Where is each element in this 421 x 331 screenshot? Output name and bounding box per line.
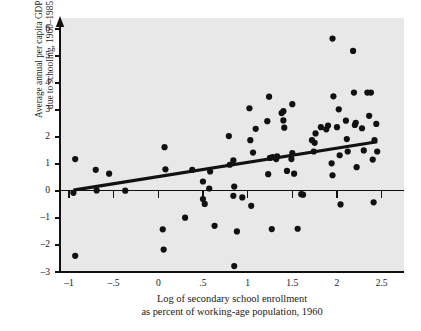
figure-container: –3–2–10123456–1–.50.511.522.5 Average an…	[0, 0, 421, 331]
y-tick-label: 2	[22, 130, 50, 141]
y-tick-label: 6	[22, 22, 50, 33]
x-axis-title-line2: as percent of working-age population, 19…	[60, 305, 404, 318]
x-tick-label: –1	[49, 277, 89, 288]
y-tick-label: –3	[22, 266, 50, 277]
y-tick-label: 5	[22, 49, 50, 60]
y-tick-label: 3	[22, 103, 50, 114]
y-tick-label: 1	[22, 157, 50, 168]
x-tick-label: 0	[138, 277, 178, 288]
x-tick-label: .5	[183, 277, 223, 288]
x-axis-title-line1: Log of secondary school enrollment	[60, 292, 404, 305]
x-tick-label: 1	[228, 277, 268, 288]
axes-group	[55, 16, 405, 272]
y-tick-label: –1	[22, 211, 50, 222]
y-tick-label: 4	[22, 76, 50, 87]
x-tick-label: 2.5	[362, 277, 402, 288]
y-tick-label: 0	[22, 184, 50, 195]
x-tick-label: –.5	[94, 277, 134, 288]
y-tick-label: –2	[22, 238, 50, 249]
x-axis-title: Log of secondary school enrollment as pe…	[60, 292, 404, 318]
data-points-group	[70, 35, 380, 269]
x-tick-label: 1.5	[272, 277, 312, 288]
x-tick-label: 2	[317, 277, 357, 288]
